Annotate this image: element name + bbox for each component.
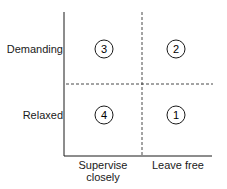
matrix-canvas: 3 2 4 1 xyxy=(0,0,227,189)
svg-text:4: 4 xyxy=(101,109,107,121)
quadrant-marker-3: 3 xyxy=(95,40,113,58)
svg-text:2: 2 xyxy=(173,43,179,55)
svg-text:1: 1 xyxy=(173,109,179,121)
quadrant-marker-2: 2 xyxy=(167,40,185,58)
svg-text:3: 3 xyxy=(101,43,107,55)
quadrant-marker-4: 4 xyxy=(95,106,113,124)
quadrant-marker-1: 1 xyxy=(167,106,185,124)
